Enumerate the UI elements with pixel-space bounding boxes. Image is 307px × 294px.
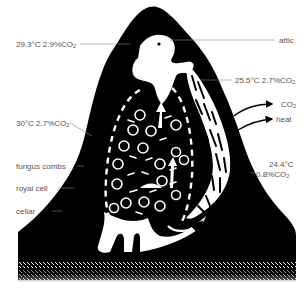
label-text: cellar <box>16 207 35 216</box>
label-right-upper-conditions: 25.5°C 2.7%CO2 <box>235 76 295 87</box>
label-right-lower-co2: 0.8%CO2 <box>256 170 289 181</box>
label-text: 30°C 2.7%CO <box>16 119 66 128</box>
label-subscript: 2 <box>292 79 295 85</box>
label-text: 0.8%CO <box>256 170 286 179</box>
label-attic: attic <box>279 36 294 45</box>
attic-dot <box>157 42 160 45</box>
label-right-lower-temp: 24.4°C <box>269 160 294 169</box>
label-fungus-combs: fungus combs <box>16 162 66 171</box>
label-cellar: cellar <box>16 207 35 216</box>
label-left-middle-conditions: 30°C 2.7%CO2 <box>16 119 69 130</box>
label-text: attic <box>279 36 294 45</box>
label-text: CO <box>281 100 293 109</box>
label-text: heat <box>276 115 292 124</box>
label-subscript: 2 <box>293 103 296 109</box>
label-subscript: 2 <box>286 173 289 179</box>
label-top-left-conditions: 29.3°C 2.9%CO2 <box>16 40 76 51</box>
co2-arrow <box>234 104 272 116</box>
label-text: 24.4°C <box>269 160 294 169</box>
label-co2-out: CO2 <box>281 100 296 111</box>
label-heat-out: heat <box>276 115 292 124</box>
label-subscript: 2 <box>66 122 69 128</box>
label-subscript: 2 <box>73 43 76 49</box>
label-text: royal cell <box>16 184 48 193</box>
label-royal-cell: royal cell <box>16 184 48 193</box>
label-text: 29.3°C 2.9%CO <box>16 40 73 49</box>
label-text: 25.5°C 2.7%CO <box>235 76 292 85</box>
heat-arrow <box>238 119 272 130</box>
label-text: fungus combs <box>16 162 66 171</box>
